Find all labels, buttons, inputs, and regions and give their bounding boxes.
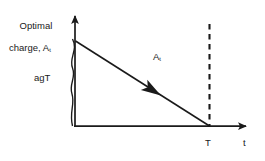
y-axis-label: Optimal charge, At [9,10,52,76]
y-axis-label-line2: charge, At [9,43,52,54]
y-axis-label-subscript: t [49,47,51,53]
measurement-squiggle [71,39,74,126]
line-series-label: At [153,52,161,63]
x-axis-label: t [243,138,246,149]
y-axis-label-line1: Optimal [20,20,53,31]
optimal-charge-line [76,41,210,126]
x-tick-label-T: T [205,138,211,149]
y-axis-label-line2-text: charge, A [9,42,49,53]
line-series-label-subscript: t [159,56,161,62]
direction-arrowhead [141,80,164,101]
figure-canvas: Optimal charge, At agT At T t [0,0,265,161]
bracket-label: agT [34,73,50,84]
